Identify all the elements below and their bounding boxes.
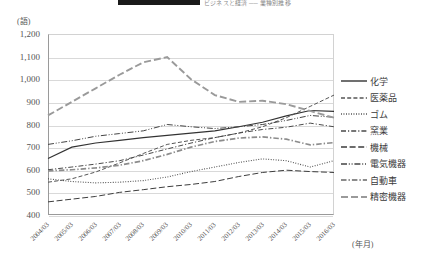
legend-item-機械[interactable]: 機械: [341, 139, 429, 156]
x-tick-label: 2015/03: [291, 221, 313, 243]
legend-item-医薬品[interactable]: 医薬品: [341, 90, 429, 107]
x-tick-label: 2006/03: [77, 221, 99, 243]
chart-title-strip: ビジネスと経済 ── 業種別推移: [118, 0, 348, 7]
chart-page: ビジネスと経済 ── 業種別推移 (語) (年月) 1,2001,1001,00…: [0, 0, 429, 267]
x-tick-label: 2007/03: [100, 221, 122, 243]
legend-label: 医薬品: [370, 91, 397, 104]
y-tick-label: 500: [27, 187, 41, 197]
legend-item-窯業[interactable]: 窯業: [341, 123, 429, 140]
x-tick-label: 2011/03: [196, 221, 218, 243]
y-tick-label: 700: [27, 142, 41, 152]
legend-item-自動車[interactable]: 自動車: [341, 172, 429, 189]
legend-swatch-icon: [341, 142, 367, 152]
legend-swatch-icon: [341, 159, 367, 169]
legend-label: 電気機器: [370, 157, 406, 170]
legend-swatch-icon: [341, 192, 367, 202]
series-line-機械: [48, 170, 334, 202]
y-tick-label: 900: [27, 97, 41, 107]
legend-label: 化学: [370, 75, 388, 88]
legend-label: 精密機器: [370, 190, 406, 203]
y-tick-label: 1,100: [20, 52, 40, 62]
x-tick-label: 2005/03: [53, 221, 75, 243]
legend-swatch-icon: [341, 76, 367, 86]
series-lines: [48, 34, 334, 215]
y-tick-label: 600: [27, 165, 41, 175]
x-tick-label: 2012/03: [220, 221, 242, 243]
legend-label: ゴム: [370, 108, 388, 121]
series-line-化学: [48, 110, 334, 158]
x-tick-label: 2016/03: [315, 221, 337, 243]
legend-item-化学[interactable]: 化学: [341, 73, 429, 90]
chart-legend: 化学医薬品ゴム窯業機械電気機器自動車精密機器: [341, 73, 429, 205]
x-tick-label: 2010/03: [172, 221, 194, 243]
x-tick-label: 2014/03: [267, 221, 289, 243]
series-line-精密機器: [48, 57, 334, 118]
legend-label: 自動車: [370, 174, 397, 187]
y-axis-tick-labels: 1,2001,1001,000900800700600500400: [0, 34, 44, 215]
x-axis-unit-label: (年月): [352, 238, 373, 249]
y-tick-label: 800: [27, 120, 41, 130]
legend-item-精密機器[interactable]: 精密機器: [341, 189, 429, 206]
legend-label: 機械: [370, 141, 388, 154]
y-axis-unit-label: (語): [17, 15, 30, 26]
x-tick-label: 2009/03: [148, 221, 170, 243]
page-title: ビジネスと経済 ── 業種別推移: [204, 0, 291, 7]
x-axis-tick-labels: 2004/032005/032006/032007/032008/032009/…: [48, 216, 334, 266]
legend-swatch-icon: [341, 126, 367, 136]
y-tick-label: 1,000: [20, 74, 40, 84]
x-tick-label: 2008/03: [124, 221, 146, 243]
y-tick-label: 400: [27, 210, 41, 220]
x-tick-label: 2013/03: [243, 221, 265, 243]
legend-swatch-icon: [341, 109, 367, 119]
series-line-医薬品: [48, 95, 334, 182]
legend-swatch-icon: [341, 175, 367, 185]
legend-item-電気機器[interactable]: 電気機器: [341, 156, 429, 173]
title-highlight-block: [118, 0, 200, 5]
y-tick-label: 1,200: [20, 29, 40, 39]
series-line-自動車: [48, 137, 334, 171]
x-tick-label: 2004/03: [29, 221, 51, 243]
legend-label: 窯業: [370, 124, 388, 137]
legend-item-ゴム[interactable]: ゴム: [341, 106, 429, 123]
legend-swatch-icon: [341, 93, 367, 103]
